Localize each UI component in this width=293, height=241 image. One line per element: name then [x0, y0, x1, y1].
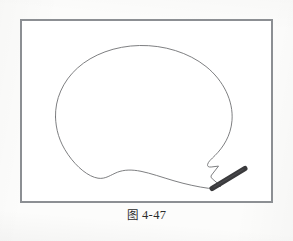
- figure-page: 图 4-47: [0, 0, 293, 241]
- speech-balloon-outline: [55, 45, 232, 188]
- brush-stroke-highlight: [214, 170, 243, 188]
- figure-caption: 图 4-47: [0, 207, 293, 223]
- figure-frame-border: [20, 19, 273, 203]
- caption-number: 4-47: [142, 208, 167, 222]
- figure-artwork: [22, 21, 275, 205]
- caption-label: 图: [127, 208, 142, 222]
